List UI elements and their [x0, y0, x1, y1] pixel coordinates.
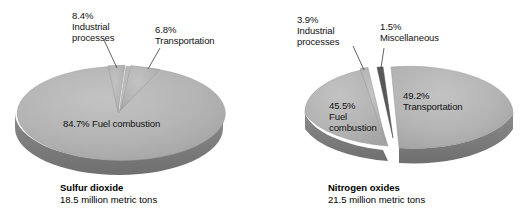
pie-chart-figure: 8.4% Industrial processes 6.8% Transport…: [0, 0, 530, 218]
caption-subtitle: 18.5 million metric tons: [60, 194, 157, 206]
sulfur-dioxide-chart-panel: 8.4% Industrial processes 6.8% Transport…: [0, 0, 265, 218]
slice-label-fuel-combustion: 45.5% Fuel combustion: [329, 100, 377, 134]
nitrogen-oxides-caption: Nitrogen oxides 21.5 million metric tons: [328, 182, 425, 205]
callout-miscellaneous: 1.5% Miscellaneous: [380, 21, 439, 43]
callout-transportation: 6.8% Transportation: [155, 24, 215, 46]
callout-industrial-processes: 3.9% Industrial processes: [297, 14, 339, 48]
slice-label-transportation: 49.2% Transportation: [403, 90, 463, 112]
slice-label-fuel-combustion: 84.7% Fuel combustion: [63, 118, 160, 129]
leader-line-miscellaneous: [381, 48, 384, 68]
caption-title: Sulfur dioxide: [60, 182, 157, 194]
caption-title: Nitrogen oxides: [328, 182, 425, 194]
nitrogen-oxides-chart-panel: 3.9% Industrial processes 1.5% Miscellan…: [265, 0, 530, 218]
callout-industrial-processes: 8.4% Industrial processes: [72, 10, 114, 44]
leader-line-transportation: [148, 48, 160, 69]
sulfur-dioxide-caption: Sulfur dioxide 18.5 million metric tons: [60, 182, 157, 205]
leader-line-industrial: [353, 46, 364, 70]
leader-line-industrial: [104, 40, 117, 68]
caption-subtitle: 21.5 million metric tons: [328, 194, 425, 206]
